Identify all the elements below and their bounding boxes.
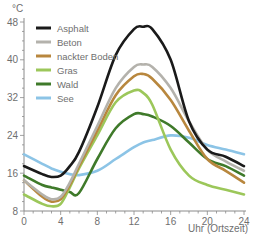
legend-label: Gras [57,65,78,76]
x-tick-label: 4 [58,216,64,227]
legend-label: nackter Boden [57,51,118,62]
legend-label: Asphalt [57,23,89,34]
legend-label: Wald [57,79,78,90]
legend: AsphaltBetonnackter BodenGrasWaldSee [36,23,118,104]
x-axis-label: Uhr (Ortszeit) [188,223,248,234]
legend-item: Wald [36,79,78,90]
legend-label: Beton [57,37,82,48]
x-tick-label: 12 [128,216,140,227]
x-tick-label: 16 [165,216,177,227]
y-tick-label: 40 [7,54,19,65]
x-tick-label: 8 [95,216,101,227]
y-tick-label: 32 [7,92,19,103]
legend-label: See [57,93,74,104]
legend-item: Gras [36,65,78,76]
temperature-chart: 8162432404804812162024 AsphaltBetonnackt… [0,0,256,244]
y-tick-label: 8 [12,206,18,217]
y-tick-label: 16 [7,168,19,179]
legend-item: See [36,93,74,104]
legend-item: Asphalt [36,23,89,34]
y-axis-label: °C [12,3,23,14]
legend-item: nackter Boden [36,51,118,62]
series-line-see [24,135,244,175]
legend-item: Beton [36,37,82,48]
x-tick-label: 0 [21,216,27,227]
y-tick-label: 24 [7,130,19,141]
y-tick-label: 48 [7,17,19,28]
